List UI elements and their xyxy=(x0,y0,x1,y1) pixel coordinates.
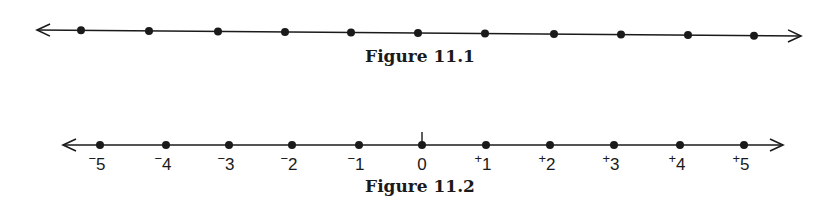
sign-superscript: + xyxy=(538,151,546,166)
tick-value: 5 xyxy=(96,155,105,174)
sign-superscript: − xyxy=(280,151,288,166)
number-line-point xyxy=(684,31,692,39)
figure-caption: Figure 11.2 xyxy=(365,176,475,196)
figure-canvas: Figure 11.1 −5−4−3−2−10+1+2+3+4+5 Figure… xyxy=(0,0,836,210)
tick-value: 2 xyxy=(288,155,297,174)
number-line-point xyxy=(546,141,554,149)
tick-label: +2 xyxy=(538,151,555,174)
sign-superscript: − xyxy=(154,151,162,166)
sign-superscript: − xyxy=(347,151,355,166)
tick-value: 3 xyxy=(610,155,619,174)
number-line-point xyxy=(77,26,85,34)
number-line-point xyxy=(676,141,684,149)
number-line-figure-11-2: −5−4−3−2−10+1+2+3+4+5 Figure 11.2 xyxy=(63,132,783,196)
tick-value: 0 xyxy=(417,155,426,174)
number-line-point xyxy=(750,32,758,40)
sign-superscript: + xyxy=(474,151,482,166)
tick-label: +4 xyxy=(668,151,685,174)
number-line-point xyxy=(740,141,748,149)
number-line-point xyxy=(481,30,489,38)
tick-label: 0 xyxy=(417,155,426,174)
number-line-figure-11-1: Figure 11.1 xyxy=(37,24,801,66)
sign-superscript: − xyxy=(88,151,96,166)
tick-label: −4 xyxy=(154,151,171,174)
sign-superscript: + xyxy=(732,151,740,166)
number-line-point xyxy=(355,141,363,149)
number-line-point xyxy=(347,28,355,36)
tick-label: −2 xyxy=(280,151,297,174)
number-line-point xyxy=(162,141,170,149)
number-line-point xyxy=(214,27,222,35)
number-line-point xyxy=(610,141,618,149)
tick-value: 4 xyxy=(676,155,685,174)
tick-value: 2 xyxy=(546,155,555,174)
number-line-point xyxy=(281,28,289,36)
number-line-point xyxy=(414,29,422,37)
number-line-point xyxy=(288,141,296,149)
number-line-labels: −5−4−3−2−10+1+2+3+4+5 xyxy=(88,151,749,174)
tick-label: −3 xyxy=(217,151,234,174)
number-line-points xyxy=(77,26,758,39)
number-line-point xyxy=(225,141,233,149)
sign-superscript: + xyxy=(668,151,676,166)
number-line-point xyxy=(145,27,153,35)
tick-value: 1 xyxy=(482,155,491,174)
tick-label: +3 xyxy=(602,151,619,174)
tick-value: 5 xyxy=(740,155,749,174)
tick-value: 4 xyxy=(162,155,171,174)
tick-value: 3 xyxy=(225,155,234,174)
number-line-point xyxy=(550,30,558,38)
number-line-point xyxy=(617,31,625,39)
figure-caption: Figure 11.1 xyxy=(365,46,475,66)
tick-label: +1 xyxy=(474,151,491,174)
number-line-point xyxy=(482,141,490,149)
tick-label: −5 xyxy=(88,151,105,174)
sign-superscript: − xyxy=(217,151,225,166)
tick-label: +5 xyxy=(732,151,749,174)
number-line-point xyxy=(96,141,104,149)
tick-value: 1 xyxy=(355,155,364,174)
number-line-point xyxy=(418,141,426,149)
sign-superscript: + xyxy=(602,151,610,166)
tick-label: −1 xyxy=(347,151,364,174)
